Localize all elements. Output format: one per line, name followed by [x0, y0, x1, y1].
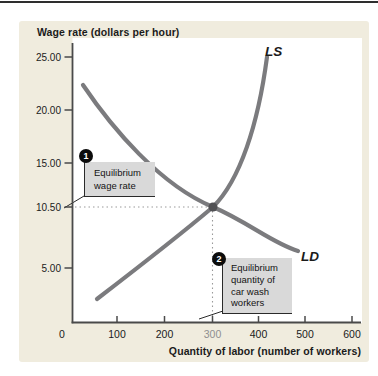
x-tick-label-origin: 0 — [59, 328, 65, 340]
y-tick-label: 20.00 — [36, 105, 61, 116]
equilibrium-wage-callout-text: Equilibrium wage rate — [94, 167, 141, 191]
figure: 25.00 20.00 15.00 10.50 5.00 0 100 200 3… — [0, 0, 378, 376]
y-axis-ticks — [65, 57, 73, 268]
callout-2-number-badge: 2 — [212, 252, 226, 266]
equilibrium-quantity-callout: Equilibrium quantity of car wash workers — [222, 258, 292, 314]
x-tick-label: 100 — [108, 328, 126, 340]
y-tick-label: 25.00 — [36, 52, 61, 63]
x-tick-label: 400 — [250, 328, 268, 340]
x-tick-label: 500 — [296, 328, 314, 340]
y-axis-title: Wage rate (dollars per hour) — [37, 26, 179, 38]
y-tick-label: 5.00 — [42, 263, 62, 274]
callout-1-number-badge: 1 — [79, 149, 93, 163]
y-tick-label: 15.00 — [36, 158, 61, 169]
x-axis-title: Quantity of labor (number of workers) — [169, 345, 361, 357]
labor-market-chart: 25.00 20.00 15.00 10.50 5.00 0 100 200 3… — [0, 0, 378, 376]
y-tick-label: 10.50 — [36, 202, 61, 213]
demand-curve-label: LD — [301, 249, 319, 264]
x-tick-label-equilibrium: 300 — [204, 328, 222, 340]
equilibrium-point — [209, 203, 218, 212]
x-tick-label: 200 — [156, 328, 174, 340]
equilibrium-wage-callout: Equilibrium wage rate — [84, 162, 155, 197]
equilibrium-quantity-callout-text: Equilibrium quantity of car wash workers — [231, 262, 278, 308]
x-tick-label: 600 — [343, 328, 361, 340]
supply-curve-label: LS — [265, 44, 282, 59]
